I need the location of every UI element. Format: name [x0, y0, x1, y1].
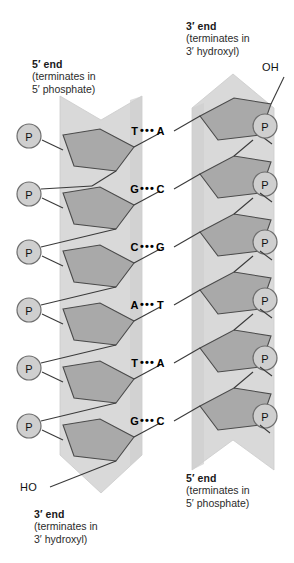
- phosphate-label: P: [261, 179, 268, 191]
- left-top-end-line2: (terminates in: [32, 70, 96, 82]
- phosphate-label: P: [261, 353, 268, 365]
- hydroxyl-terminal-ho: HO: [20, 481, 37, 493]
- base-pair-row: C•••G: [130, 240, 165, 253]
- phosphate-label: P: [261, 121, 268, 133]
- hydrogen-bond-dots: •••: [139, 414, 156, 426]
- right-top-end-line3: 3′ hydroxyl): [186, 45, 250, 57]
- left-bottom-end-title: 3′ end: [34, 508, 98, 520]
- phosphate-label: P: [261, 237, 268, 249]
- base-right: C: [156, 183, 165, 195]
- right-bottom-end-line2: (terminates in: [186, 484, 250, 496]
- base-right: T: [156, 299, 165, 311]
- right-bottom-end-line3: 5′ phosphate): [186, 497, 250, 509]
- base-left: A: [130, 299, 139, 311]
- hydrogen-bond-dots: •••: [139, 240, 156, 252]
- right-strand-bottom-end-label: 5′ end (terminates in 5′ phosphate): [186, 472, 250, 509]
- right-top-end-title: 3′ end: [186, 20, 250, 32]
- base-left: C: [130, 241, 139, 253]
- hydrogen-bond-dots: •••: [139, 124, 156, 136]
- right-bottom-end-title: 5′ end: [186, 472, 250, 484]
- base-left: T: [130, 357, 139, 369]
- phosphate-label: P: [25, 189, 32, 201]
- left-top-end-line3: 5′ phosphate): [32, 83, 96, 95]
- phosphate-label: P: [25, 131, 32, 143]
- base-left: G: [130, 183, 139, 195]
- base-pair-row: G•••C: [130, 182, 165, 195]
- base-right: C: [156, 415, 165, 427]
- left-bottom-end-line3: 3′ hydroxyl): [34, 533, 98, 545]
- dna-diagram-figure: P P P P: [0, 0, 294, 563]
- left-top-end-title: 5′ end: [32, 58, 96, 70]
- base-pair-row: T•••A: [130, 356, 165, 369]
- hydrogen-bond-dots: •••: [139, 182, 156, 194]
- phosphate-label: P: [25, 305, 32, 317]
- left-bottom-end-line2: (terminates in: [34, 520, 98, 532]
- phosphate-label: P: [261, 295, 268, 307]
- hydrogen-bond-dots: •••: [139, 356, 156, 368]
- base-pair-row: G•••C: [130, 414, 165, 427]
- left-strand-top-end-label: 5′ end (terminates in 5′ phosphate): [32, 58, 96, 95]
- base-right: A: [156, 357, 165, 369]
- hydrogen-bond-dots: •••: [139, 298, 156, 310]
- base-left: T: [130, 125, 139, 137]
- terminal-hydroxyl-bond-right: [271, 77, 284, 104]
- phosphate-label: P: [25, 247, 32, 259]
- hydroxyl-terminal-oh: OH: [262, 61, 279, 73]
- phosphate-label: P: [25, 421, 32, 433]
- left-strand-bottom-end-label: 3′ end (terminates in 3′ hydroxyl): [34, 508, 98, 545]
- base-right: A: [156, 125, 165, 137]
- phosphate-label: P: [25, 363, 32, 375]
- phosphate-label: P: [261, 411, 268, 423]
- right-strand-top-end-label: 3′ end (terminates in 3′ hydroxyl): [186, 20, 250, 57]
- base-pair-row: T•••A: [130, 124, 165, 137]
- base-left: G: [130, 415, 139, 427]
- base-pair-row: A•••T: [130, 298, 165, 311]
- right-top-end-line2: (terminates in: [186, 32, 250, 44]
- base-right: G: [156, 241, 165, 253]
